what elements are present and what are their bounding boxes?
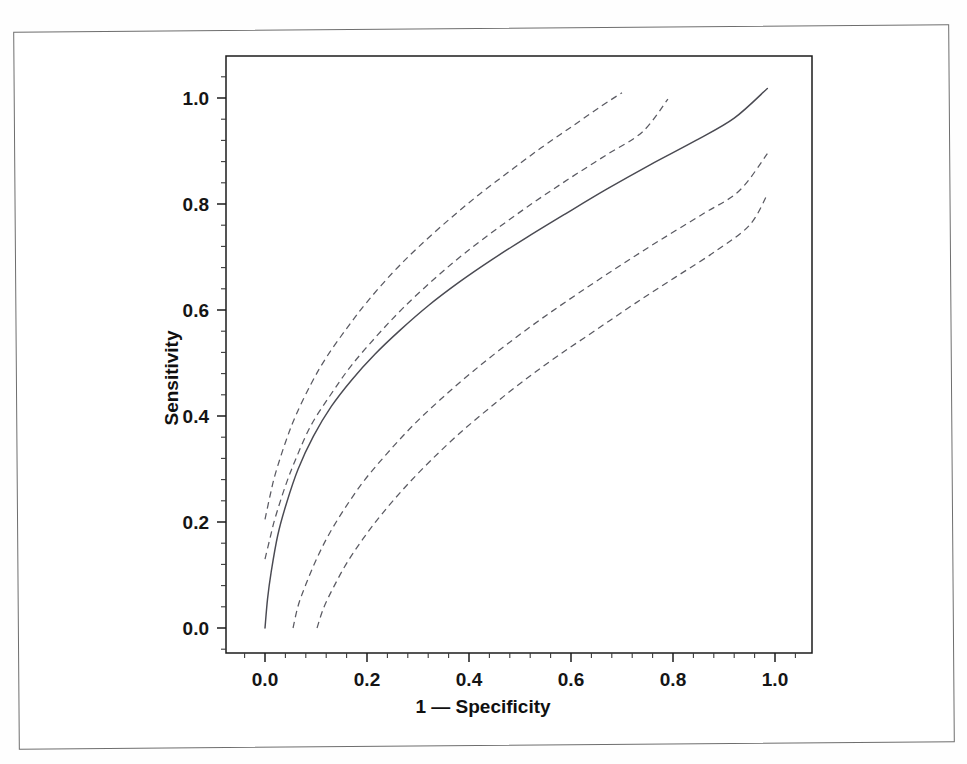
x-tick-label: 0.4: [456, 669, 483, 690]
roc-confidence-band-line: [265, 93, 622, 520]
roc-confidence-band-line: [317, 194, 767, 628]
roc-confidence-band-line: [293, 154, 767, 628]
roc-curves-group: [265, 88, 767, 628]
x-tick-label: 0.0: [252, 669, 278, 690]
y-axis-ticks: [217, 77, 226, 649]
y-axis-tick-labels: 0.00.20.40.60.81.0: [183, 88, 210, 639]
y-tick-label: 0.0: [183, 618, 209, 639]
roc-curve-line: [265, 88, 767, 628]
x-axis-tick-labels: 0.00.20.40.60.81.0: [252, 669, 788, 690]
y-tick-label: 0.4: [183, 406, 210, 427]
roc-chart-svg: 0.00.20.40.60.81.0 0.00.20.40.60.81.0 1 …: [0, 0, 967, 764]
x-tick-label: 0.8: [660, 669, 686, 690]
scanned-page: 0.00.20.40.60.81.0 0.00.20.40.60.81.0 1 …: [0, 0, 967, 764]
x-tick-label: 0.2: [354, 669, 380, 690]
x-axis-title: 1 — Specificity: [415, 696, 551, 717]
y-tick-label: 1.0: [183, 88, 209, 109]
roc-confidence-band-line: [265, 99, 668, 559]
roc-chart-figure: 0.00.20.40.60.81.0 0.00.20.40.60.81.0 1 …: [0, 0, 967, 764]
x-tick-label: 1.0: [762, 669, 788, 690]
x-axis-ticks: [245, 653, 796, 662]
y-tick-label: 0.8: [183, 194, 209, 215]
y-axis-title: Sensitivity: [161, 330, 182, 425]
x-tick-label: 0.6: [558, 669, 584, 690]
y-tick-label: 0.6: [183, 300, 209, 321]
y-tick-label: 0.2: [183, 512, 209, 533]
